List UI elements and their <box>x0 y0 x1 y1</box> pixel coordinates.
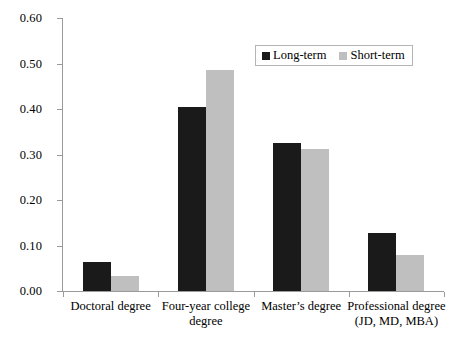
category-group <box>63 18 158 291</box>
bar-long-term <box>83 262 111 291</box>
legend-swatch-icon <box>262 52 270 60</box>
x-axis-tick-label-line: (JD, MD, MBA) <box>341 314 451 329</box>
y-axis-tick-label: 0.10 <box>20 238 42 253</box>
y-axis-tick-mark <box>57 64 62 65</box>
y-axis-tick-mark <box>57 246 62 247</box>
bar-chart: 0.000.100.200.300.400.500.60 Doctoral de… <box>0 0 451 340</box>
bar-short-term <box>396 255 424 291</box>
x-axis-tick-mark <box>158 292 159 297</box>
y-axis-tick-mark <box>57 18 62 19</box>
legend-label: Short-term <box>350 49 404 62</box>
y-axis-tick-mark <box>57 200 62 201</box>
category-group <box>158 18 253 291</box>
bar-short-term <box>206 70 234 291</box>
bar-pair <box>83 18 139 291</box>
y-axis-tick-mark <box>57 109 62 110</box>
legend-label: Long-term <box>273 49 326 62</box>
x-axis-end-tick <box>444 292 445 297</box>
bar-short-term <box>301 149 329 291</box>
y-axis: 0.000.100.200.300.400.500.60 <box>0 0 52 340</box>
legend-entry: Long-term <box>262 49 326 62</box>
y-axis-tick-label: 0.00 <box>20 284 42 299</box>
x-axis-end-tick <box>63 292 64 297</box>
bar-short-term <box>111 276 139 291</box>
legend-swatch-icon <box>339 52 347 60</box>
y-axis-tick-label: 0.20 <box>20 193 42 208</box>
bar-long-term <box>178 107 206 291</box>
x-axis-tick-mark <box>349 292 350 297</box>
y-axis-tick-mark <box>57 291 62 292</box>
y-axis-tick-label: 0.30 <box>20 147 42 162</box>
bar-long-term <box>368 233 396 291</box>
x-axis-tick-label-line: degree <box>150 314 261 329</box>
bar-long-term <box>273 143 301 291</box>
y-axis-tick-label: 0.60 <box>20 11 42 26</box>
chart-legend: Long-termShort-term <box>255 45 413 66</box>
y-axis-tick-label: 0.40 <box>20 102 42 117</box>
bar-pair <box>178 18 234 291</box>
y-axis-tick-label: 0.50 <box>20 56 42 71</box>
x-axis: Doctoral degreeFour-year collegedegreeMa… <box>63 299 444 340</box>
x-axis-tick-label: Professional degree(JD, MD, MBA) <box>341 299 451 329</box>
legend-entry: Short-term <box>339 49 404 62</box>
x-axis-tick-label-line: Professional degree <box>341 299 451 314</box>
y-axis-tick-mark <box>57 155 62 156</box>
x-axis-tick-mark <box>254 292 255 297</box>
